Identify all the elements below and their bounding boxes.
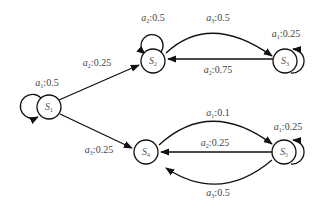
- edge-label-s5-s4-arc: a3:0.5: [206, 188, 229, 199]
- state-diagram: S1 S2 S3 S4 S5 a1:0.5 a2:0.25 a3:0.25 a2…: [0, 0, 329, 210]
- node-s4-label: S4: [142, 147, 150, 158]
- edge-label-s1-s2: a2:0.25: [83, 58, 111, 69]
- edge-label-s2-s3: a3:0.5: [206, 13, 229, 24]
- edge-label-s4-s5: a1:0.1: [206, 108, 229, 119]
- edge-s5-s4-arc: [166, 160, 272, 184]
- edge-label-s2-self: a2:0.5: [141, 13, 164, 24]
- node-s1-label: S1: [45, 102, 53, 113]
- edge-s2-s3: [166, 33, 272, 56]
- edge-label-s1-s4: a3:0.25: [85, 145, 113, 156]
- edge-label-s3-s2: a2:0.75: [204, 65, 232, 76]
- node-s2-label: S2: [149, 56, 157, 67]
- edge-label-s5-s4-straight: a2:0.25: [201, 138, 229, 149]
- edge-label-s1-self: a1:0.5: [35, 78, 58, 89]
- edge-label-s5-self: a1:0.25: [274, 122, 302, 133]
- edge-s1-s2: [59, 65, 139, 100]
- node-s5-label: S5: [280, 147, 288, 158]
- edge-label-s3-self: a1:0.25: [272, 29, 300, 40]
- node-s3-label: S3: [281, 56, 289, 67]
